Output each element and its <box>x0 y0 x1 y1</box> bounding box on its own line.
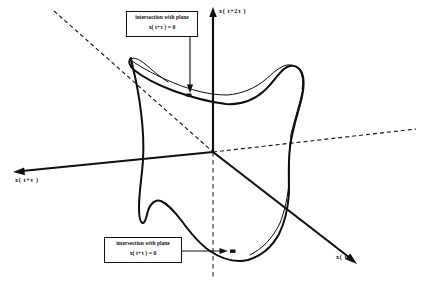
x-t-axis-line <box>213 152 350 258</box>
axis-label-x-t: x( t ) <box>336 253 352 260</box>
callout-bottom-intersection-marker <box>230 250 236 253</box>
attractor-right-edge-double <box>250 88 303 255</box>
x-t-plus-2tau-axis-arrowhead <box>209 7 217 17</box>
callout-bottom-line1: intersection with plane <box>109 240 177 247</box>
x-t-plus-tau-axis-arrowhead <box>13 167 25 175</box>
callout-leaders-group <box>182 37 236 254</box>
callout-top-line2: x( t+τ ) = 0 <box>131 24 193 31</box>
callout-bottom-line2: x( t+τ ) = 0 <box>109 250 177 257</box>
attractor-canvas <box>0 0 424 285</box>
axis-label-x-t-plus-tau: x( t+τ ) <box>15 176 39 183</box>
attractor-left-tip-fold <box>131 58 168 82</box>
attractor-figure: intersection with plane x( t+τ ) = 0 int… <box>0 0 424 285</box>
attractor-fold-inner <box>132 61 303 95</box>
callout-top-line1: intersection with plane <box>131 14 193 21</box>
axis-label-x-t-plus-2tau: x( t+2τ ) <box>219 7 246 14</box>
right-dashed-guide <box>213 129 416 152</box>
callout-intersection-top: intersection with plane x( t+τ ) = 0 <box>126 11 198 37</box>
callout-top-leader-arrowhead <box>187 85 193 94</box>
attractor-outline <box>129 58 303 261</box>
x-t-plus-tau-axis-line <box>22 152 213 171</box>
callout-intersection-bottom: intersection with plane x( t+τ ) = 0 <box>104 237 182 263</box>
attractor-trajectory-group <box>129 58 303 261</box>
callout-bottom-leader-arrowhead <box>220 248 229 254</box>
callout-top-intersection-marker <box>187 94 192 97</box>
